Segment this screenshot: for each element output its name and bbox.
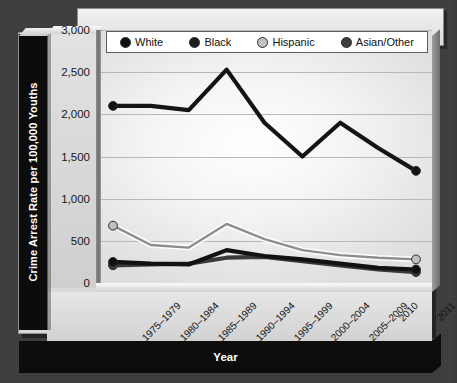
y-axis-tick-label: 0 [84, 277, 90, 289]
series-layer [101, 30, 432, 283]
series-marker [412, 255, 421, 264]
y-axis-tick-label: 3,000 [61, 24, 90, 36]
y-axis-panel: 3,0002,5002,0001,5001,0005000 [47, 34, 96, 288]
series-marker [412, 166, 421, 175]
legend-item[interactable]: White [107, 36, 176, 48]
plot-area [101, 30, 432, 283]
legend-item-label: Asian/Other [356, 36, 414, 48]
x-axis-labels-band: 1975–19791980–19841985–19891990–19941995… [47, 292, 432, 341]
series-line [113, 70, 416, 171]
series-marker [109, 221, 118, 230]
legend-marker-icon [257, 37, 268, 48]
legend-item-label: Hispanic [272, 36, 314, 48]
legend-item[interactable]: Asian/Other [328, 36, 427, 48]
x-axis-tick-label: 1980–1984 [178, 300, 221, 343]
y-axis-spine [96, 30, 101, 288]
series-marker [109, 102, 118, 111]
x-axis-title-bar: Year [19, 341, 432, 373]
legend-item-label: Black [204, 36, 231, 48]
y-axis-tick-label: 1,000 [61, 193, 90, 205]
y-axis-tick-label: 1,500 [61, 151, 90, 163]
series-marker [109, 258, 118, 267]
legend-marker-icon [341, 37, 352, 48]
x-axis-tick-label: 1985–1989 [215, 300, 258, 343]
y-axis-tick-label: 2,500 [61, 66, 90, 78]
series-marker [412, 265, 421, 274]
legend-item[interactable]: Black [176, 36, 244, 48]
legend-item[interactable]: Hispanic [244, 36, 327, 48]
legend-marker-icon [120, 37, 131, 48]
y-axis-title-block: Crime Arrest Rate per 100,000 Youths [19, 34, 48, 330]
y-axis-tick-label: 2,000 [61, 108, 90, 120]
legend-item-label: White [135, 36, 163, 48]
x-axis-tick-label: 1975–1979 [140, 300, 183, 343]
y-axis-tick-label: 500 [71, 235, 90, 247]
legend-marker-icon [189, 37, 200, 48]
x-axis-tick-label: 2000–2004 [329, 300, 372, 343]
y-axis-title: Crime Arrest Rate per 100,000 Youths [19, 34, 47, 330]
chart-legend: WhiteBlackHispanicAsian/Other [106, 31, 428, 53]
x-axis-tick-label: 1990–1994 [253, 300, 296, 343]
x-axis-tick-label: 1995–1999 [291, 300, 334, 343]
plot-right-edge [432, 29, 440, 292]
x-axis-title: Year [213, 351, 237, 363]
